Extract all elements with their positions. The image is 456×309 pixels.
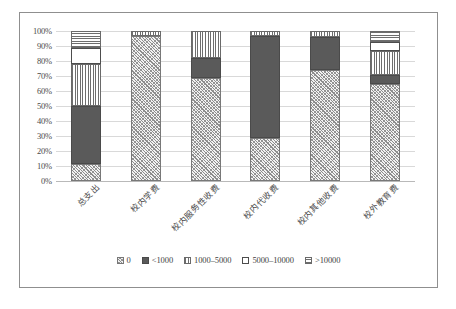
- x-axis-label-3: 校内代收费: [243, 183, 281, 221]
- legend-item[interactable]: 1000–5000: [184, 256, 231, 265]
- x-axis-label-2: 校内服务性收费: [170, 183, 221, 234]
- y-axis-tick-label: 70%: [37, 72, 52, 81]
- bar-segment: [71, 31, 101, 48]
- gridline: [56, 61, 415, 62]
- legend-item[interactable]: 0: [117, 256, 131, 265]
- x-axis-label-4: 校内其他收费: [296, 183, 340, 227]
- y-axis-tick-label: 50%: [37, 102, 52, 111]
- stacked-bar: [370, 31, 400, 181]
- bar-segment: [370, 51, 400, 75]
- bar-segment: [310, 31, 340, 37]
- y-axis-tick-label: 80%: [37, 57, 52, 66]
- stacked-bar: [310, 31, 340, 181]
- stacked-bar: [250, 31, 280, 181]
- y-axis-tick-label: 90%: [37, 42, 52, 51]
- bar-segment: [191, 58, 221, 78]
- bar-segment: [310, 37, 340, 70]
- bar-segment: [250, 31, 280, 36]
- gridline: [56, 166, 415, 167]
- gridline: [56, 121, 415, 122]
- bar-segment: [310, 70, 340, 181]
- y-axis-tick-label: 100%: [33, 27, 52, 36]
- legend-item[interactable]: <1000: [142, 256, 173, 265]
- stacked-bar: [191, 31, 221, 181]
- plot-inner: 100%90%80%70%60%50%40%30%20%10%0%: [56, 31, 415, 181]
- diagonal-hatch-swatch: [117, 257, 124, 264]
- legend-item[interactable]: 5000–10000: [242, 256, 294, 265]
- horizontal-lines-swatch: [305, 257, 312, 264]
- gridline: [56, 76, 415, 77]
- legend-label: <1000: [152, 256, 173, 265]
- legend-label: 0: [127, 256, 131, 265]
- white-empty-swatch: [242, 257, 249, 264]
- y-axis-tick-label: 0%: [41, 177, 52, 186]
- bar-segment: [370, 31, 400, 42]
- bar-segment: [131, 31, 161, 36]
- gridline: [56, 181, 415, 182]
- gridline: [56, 136, 415, 137]
- y-axis-tick-label: 10%: [37, 162, 52, 171]
- legend-label: 1000–5000: [194, 256, 231, 265]
- chart-figure-frame: 100%90%80%70%60%50%40%30%20%10%0% 总支出校内学…: [19, 12, 438, 288]
- figure-caption: [0, 296, 456, 306]
- x-axis-category-labels: 总支出校内学费校内服务性收费校内代收费校内其他收费校外教育费: [56, 183, 415, 245]
- chart-legend: 0<10001000–50005000–10000>10000: [20, 256, 437, 265]
- bar-segment: [250, 138, 280, 182]
- gridline: [56, 106, 415, 107]
- stacked-bar: [71, 31, 101, 181]
- legend-label: 5000–10000: [252, 256, 294, 265]
- y-axis-tick-label: 20%: [37, 147, 52, 156]
- bar-segment: [71, 106, 101, 164]
- y-axis-tick-label: 30%: [37, 132, 52, 141]
- bar-segment: [131, 36, 161, 181]
- bar-segment: [71, 164, 101, 181]
- bar-segment: [250, 36, 280, 138]
- solid-dark-swatch: [142, 257, 149, 264]
- gridline: [56, 31, 415, 32]
- bar-segment: [370, 42, 400, 51]
- gridline: [56, 91, 415, 92]
- x-axis-label-0: 总支出: [76, 183, 101, 208]
- x-axis-label-1: 校内学费: [129, 183, 161, 215]
- bar-segment: [191, 31, 221, 58]
- bar-segment: [370, 75, 400, 84]
- gridline: [56, 151, 415, 152]
- y-axis-tick-label: 60%: [37, 87, 52, 96]
- gridline: [56, 46, 415, 47]
- stacked-bar: [131, 31, 161, 181]
- vertical-lines-swatch: [184, 257, 191, 264]
- legend-label: >10000: [315, 256, 340, 265]
- bar-segment: [71, 48, 101, 64]
- plot-area: 100%90%80%70%60%50%40%30%20%10%0%: [56, 31, 415, 181]
- legend-item[interactable]: >10000: [305, 256, 340, 265]
- bar-segment: [71, 64, 101, 106]
- y-axis-tick-label: 40%: [37, 117, 52, 126]
- bar-segment: [191, 78, 221, 182]
- bar-segment: [370, 84, 400, 182]
- x-axis-label-5: 校外教育费: [362, 183, 400, 221]
